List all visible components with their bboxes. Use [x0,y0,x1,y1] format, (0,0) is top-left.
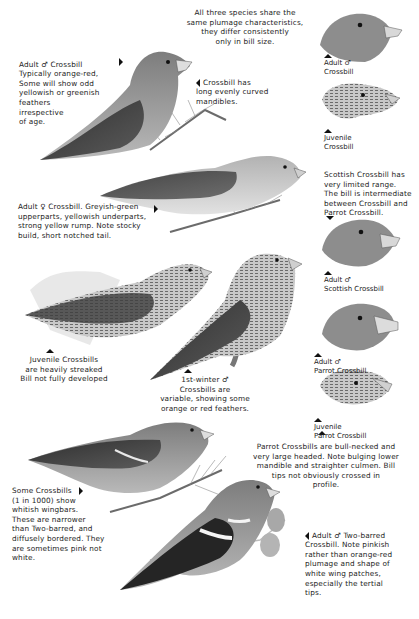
scottish-note: Scottish Crossbill has very limited rang… [324,170,419,218]
head-juvenile-crossbill [322,84,400,119]
pointer-up-icon [324,54,332,58]
two-barred-note: Adult ♂ Two-barred Crossbill. Note pinki… [305,521,415,598]
pointer-up-icon [324,271,332,275]
pointer-up-icon [184,369,192,373]
label-text: Adult ♂ Parrot Crossbill [314,358,366,375]
pointer-up-icon [46,349,54,353]
label-text: Juvenile Parrot Crossbill [314,423,366,440]
pointer-right-icon [119,58,123,66]
bill-shape-note-text: Crossbill has long evenly curved mandibl… [196,78,268,106]
juvenile-note: Juvenile Crossbills are heavily streaked… [14,355,114,384]
head-label-adult-male-parrot: Adult ♂ Parrot Crossbill [314,344,366,376]
juvenile-crossbill-illustration [25,264,212,345]
pointer-left-icon [196,79,200,87]
bill-shape-note: Crossbill has long evenly curved mandibl… [196,68,291,106]
first-winter-male-note: 1st-winter ♂ Crossbills are variable, sh… [150,375,260,413]
head-label-adult-male-crossbill: Adult ♂ Crossbill [324,45,353,77]
adult-male-note: Adult ♂ Crossbill Typically orange-red, … [19,50,124,127]
head-adult-male-scottish [322,220,400,267]
intro-note: All three species share the same plumage… [175,8,315,46]
pointer-up-icon [314,418,322,422]
pointer-down-icon [326,216,334,220]
head-label-juvenile-crossbill: Juvenile Crossbill [324,120,353,152]
parrot-note: Parrot Crossbills are bull-necked and ve… [236,442,416,490]
head-label-adult-male-scottish: Adult ♂ Scottish Crossbill [324,262,384,294]
pointer-up-icon [314,353,322,357]
two-barred-note-text: Adult ♂ Two-barred Crossbill. Note pinki… [305,531,392,598]
label-text: Adult ♂ Crossbill [324,59,353,76]
pointer-left-icon [305,532,309,540]
label-text: Adult ♂ Scottish Crossbill [324,276,384,293]
pointer-up-icon [324,129,332,133]
adult-female-note: Adult ♀ Crossbill. Greyish-green upperpa… [18,202,168,240]
pointer-right-icon [79,487,83,495]
wingbars-note: Some Crossbills (1 in 1000) show whitish… [12,486,127,563]
adult-male-note-text: Adult ♂ Crossbill Typically orange-red, … [19,60,100,127]
two-barred-crossbill-illustration [120,480,285,590]
label-text: Juvenile Crossbill [324,134,353,151]
head-label-juvenile-parrot: Juvenile Parrot Crossbill [314,409,366,441]
pointer-right-icon [154,205,158,213]
